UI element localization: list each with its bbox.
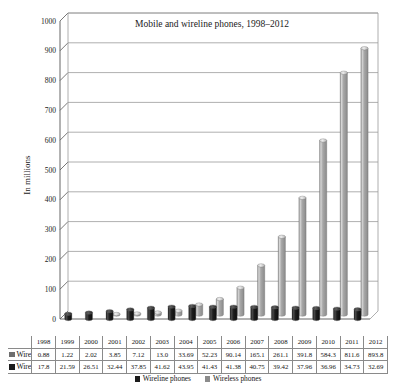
table-cell: 90.14	[221, 348, 245, 361]
table-cell: 893.8	[364, 348, 388, 361]
table-cell: 13.0	[150, 348, 174, 361]
gridline	[60, 251, 378, 259]
bar-wireline	[354, 308, 361, 321]
gridline	[60, 281, 378, 289]
y-axis-label: In millions	[22, 155, 32, 195]
bar-wireless	[154, 311, 161, 317]
table-cell: 40.75	[245, 361, 269, 374]
bar-wireline	[65, 312, 72, 321]
table-cell: 32.44	[103, 361, 127, 374]
table-cell: 33.69	[174, 348, 198, 361]
table-row-label: Wireline phones	[8, 361, 32, 374]
bar-wireless	[237, 286, 244, 316]
gridline	[60, 102, 378, 110]
bar-wireless	[361, 47, 368, 317]
table-row: Wireline phones17.821.5926.5132.4437.854…	[8, 361, 388, 374]
series-swatch-icon	[9, 364, 15, 370]
bar-wireless	[278, 235, 285, 316]
y-tick-label: 800	[45, 76, 57, 85]
table-year-header: 1999	[55, 336, 79, 348]
y-tick-label: 400	[45, 195, 57, 204]
table-year-header: 2009	[293, 336, 317, 348]
y-tick-label: 0	[52, 315, 56, 324]
y-tick-label: 700	[45, 106, 57, 115]
chart-legend: Wireline phonesWireless phones	[0, 374, 396, 383]
bar-wireline	[147, 306, 154, 321]
table-cell: 1.22	[55, 348, 79, 361]
table-year-header: 2012	[364, 336, 388, 348]
y-tick-label: 300	[45, 225, 57, 234]
table-year-header: 2001	[103, 336, 127, 348]
table-cell: 41.38	[221, 361, 245, 374]
table-cell: 41.43	[198, 361, 222, 374]
legend-label: Wireline phones	[143, 374, 191, 383]
gridline	[60, 43, 378, 51]
table-cell: 32.69	[364, 361, 388, 374]
gridline	[60, 222, 378, 230]
bar-wireline	[189, 304, 196, 320]
bar-wireline	[127, 308, 134, 321]
legend-label: Wireless phones	[213, 374, 261, 383]
bar-wireless	[216, 297, 223, 316]
table-cell: 165.1	[245, 348, 269, 361]
bar-wireline	[271, 306, 278, 321]
table-cell: 2.02	[79, 348, 103, 361]
table-year-header: 2011	[340, 336, 364, 348]
bar-wireline	[106, 309, 113, 320]
y-tick-label: 1000	[41, 17, 56, 26]
table-year-header: 2006	[221, 336, 245, 348]
table-cell: 811.6	[340, 348, 364, 361]
bar-wireline	[313, 306, 320, 320]
table-row: Wireless phones0.881.222.023.857.1213.03…	[8, 348, 388, 361]
bar-wireless	[299, 196, 306, 316]
bar-wireless	[340, 71, 347, 316]
table-cell: 52.23	[198, 348, 222, 361]
table-year-header: 2008	[269, 336, 293, 348]
table-year-header: 2010	[316, 336, 340, 348]
table-cell: 26.51	[79, 361, 103, 374]
table-year-header: 2002	[127, 336, 151, 348]
bar-wireless	[134, 312, 141, 317]
plot-frame	[60, 13, 378, 319]
table-year-header: 1998	[32, 336, 56, 348]
bar-wireline	[209, 305, 216, 321]
table-year-header: 2004	[174, 336, 198, 348]
table-cell: 584.3	[316, 348, 340, 361]
gridline	[60, 132, 378, 140]
bar-wireline	[292, 306, 299, 321]
legend-item: Wireline phones	[135, 374, 191, 383]
legend-swatch-icon	[205, 376, 211, 382]
legend-swatch-icon	[135, 376, 141, 382]
table-cell: 21.59	[55, 361, 79, 374]
bar-wireless	[196, 303, 203, 316]
table-year-header: 2000	[79, 336, 103, 348]
table-year-header: 2007	[245, 336, 269, 348]
table-cell: 391.8	[293, 348, 317, 361]
plot-area: 01002003004005006007008009001000Mobile a…	[22, 13, 378, 324]
y-tick-label: 900	[45, 46, 57, 55]
table-cell: 41.62	[150, 361, 174, 374]
gridline	[60, 73, 378, 81]
table-cell: 17.8	[32, 361, 56, 374]
bar-wireline	[168, 305, 175, 321]
bar-wireless	[320, 139, 327, 317]
table-cell: 39.42	[269, 361, 293, 374]
chart-canvas: 01002003004005006007008009001000Mobile a…	[0, 0, 396, 391]
table-year-header: 2003	[150, 336, 174, 348]
gridline	[60, 192, 378, 200]
chart-figure: 01002003004005006007008009001000Mobile a…	[0, 0, 396, 391]
bar-wireless	[175, 309, 182, 316]
y-tick-label: 100	[45, 285, 57, 294]
table-cell: 7.12	[127, 348, 151, 361]
table-cell: 261.1	[269, 348, 293, 361]
gridline	[60, 162, 378, 170]
table-cell: 0.88	[32, 348, 56, 361]
table-cell: 34.73	[340, 361, 364, 374]
legend-item: Wireless phones	[205, 374, 261, 383]
bar-wireless	[113, 312, 120, 316]
bar-wireline	[251, 305, 258, 321]
data-table: 1998199920002001200220032004200520062007…	[8, 336, 388, 374]
table-cell: 37.85	[127, 361, 151, 374]
table-cell: 3.85	[103, 348, 127, 361]
table-cell: 36.96	[316, 361, 340, 374]
